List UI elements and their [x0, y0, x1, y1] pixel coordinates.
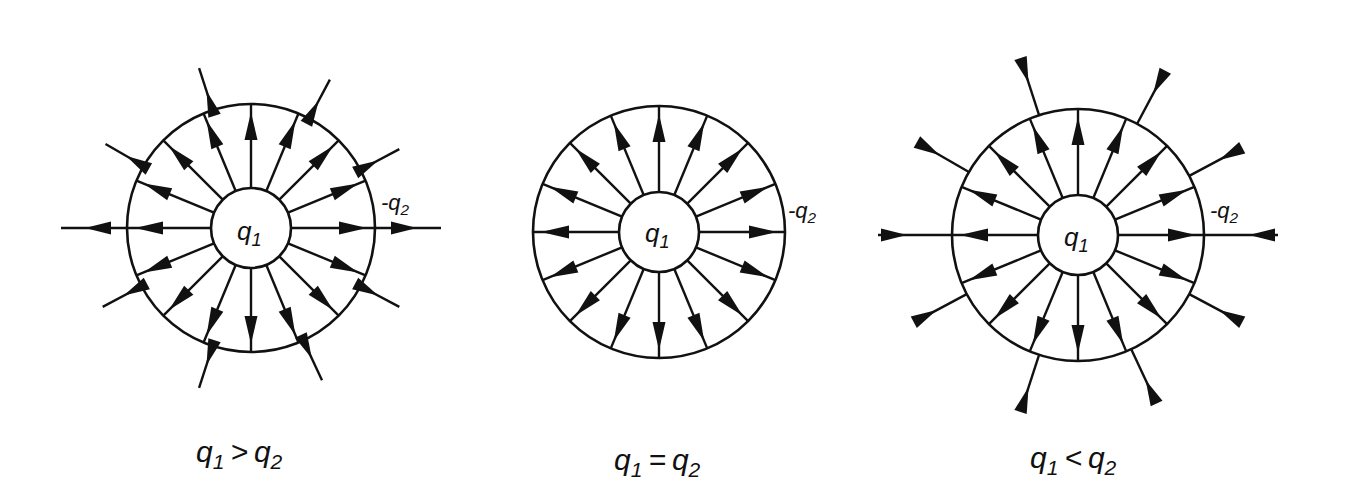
outer-charge-label: -q2: [381, 190, 410, 218]
inner-field-arrowhead: [330, 256, 358, 273]
inner-field-arrowhead: [740, 260, 768, 277]
outer-field-arrowhead: [911, 310, 937, 328]
inner-field-arrowhead: [207, 121, 224, 149]
outer-field-arrowhead: [391, 222, 417, 235]
inner-field-arrowhead: [969, 190, 997, 207]
inner-field-arrowhead: [339, 222, 367, 235]
inner-field-arrowhead: [614, 313, 631, 341]
inner-field-arrowhead: [550, 187, 578, 204]
inner-field-arrowhead: [1168, 229, 1196, 242]
inner-field-arrowhead: [144, 256, 172, 273]
outer-field-arrowhead: [85, 222, 111, 235]
inner-field-arrowhead: [653, 322, 666, 350]
outer-field-arrowhead: [1249, 229, 1275, 242]
inner-field-arrowhead: [1072, 325, 1085, 353]
inner-field-arrowhead: [245, 316, 258, 344]
outer-field-arrowhead: [207, 91, 221, 118]
inner-field-arrowhead: [749, 226, 777, 239]
outer-charge-label: -q2: [1210, 198, 1239, 226]
inner-field-arrowhead: [144, 184, 172, 201]
inner-field-arrowhead: [207, 307, 224, 335]
outer-field-arrowhead: [914, 136, 940, 155]
outer-field-arrowhead: [1014, 56, 1028, 83]
outer-charge-label: -q2: [788, 198, 817, 226]
inner-field-arrowhead: [687, 123, 704, 151]
inner-field-arrowhead: [960, 229, 988, 242]
outer-field-arrowhead: [881, 229, 907, 242]
inner-field-arrowhead: [550, 260, 578, 277]
inner-field-arrowhead: [330, 184, 358, 201]
inner-field-arrowhead: [1159, 190, 1187, 207]
inner-field-arrowhead: [541, 226, 569, 239]
inner-field-arrowhead: [740, 187, 768, 204]
inner-field-arrowhead: [245, 112, 258, 140]
outer-field-arrowhead: [207, 338, 221, 365]
caption-q1-less-q2: q1<q2: [1030, 441, 1117, 479]
outer-field-arrowhead: [1153, 68, 1171, 94]
outer-field-arrowhead: [1219, 310, 1245, 328]
inner-field-arrowhead: [614, 123, 631, 151]
inner-field-arrowhead: [135, 222, 163, 235]
inner-field-arrowhead: [653, 114, 666, 142]
inner-field-arrowhead: [1033, 316, 1050, 344]
caption-q1-greater-q2: q1>q2: [196, 435, 283, 473]
panel-q1-equal-q2: q1 -q2 q1=q2: [533, 106, 817, 481]
inner-field-arrowhead: [687, 313, 704, 341]
caption-q1-equal-q2: q1=q2: [614, 443, 701, 481]
panel-q1-greater-than-q2: q1 -q2 q1>q2: [61, 68, 441, 473]
field-lines-figure: q1 -q2 q1>q2 q1 -q2 q1=q2 q1 -q2 q1<q2: [0, 0, 1346, 499]
outer-field-arrowhead: [1219, 142, 1245, 160]
inner-field-arrowhead: [1033, 126, 1050, 154]
inner-field-arrowhead: [1072, 117, 1085, 145]
outer-field-arrowhead: [1014, 387, 1028, 414]
inner-field-arrowhead: [1159, 263, 1187, 280]
inner-field-arrowhead: [279, 121, 296, 149]
outer-field-arrowhead: [1146, 380, 1163, 406]
inner-field-arrowhead: [279, 307, 296, 335]
inner-field-arrowhead: [1106, 126, 1123, 154]
inner-field-arrowhead: [969, 263, 997, 280]
panel-q1-less-than-q2: q1 -q2 q1<q2: [878, 56, 1278, 479]
inner-field-arrowhead: [1106, 316, 1123, 344]
